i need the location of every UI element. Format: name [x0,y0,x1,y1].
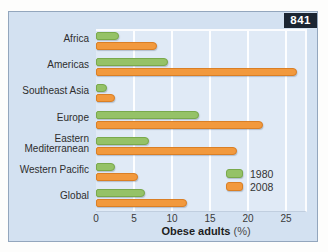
bar-1980-africa [96,32,119,40]
gridline-25 [285,31,287,211]
category-label-western-pacific: Western Pacific [9,157,89,183]
x-axis-title-bold: Obese adults [161,225,230,237]
bar-1980-americas [96,58,168,66]
x-tick-label-10: 10 [161,213,183,224]
bar-1980-europe [96,111,199,119]
bar-2008-africa [96,42,157,50]
x-tick-label-25: 25 [275,213,297,224]
bar-1980-southeast-asia [96,84,107,92]
bar-2008-europe [96,121,263,129]
legend-swatch-2008 [226,182,243,191]
legend-label-2008: 2008 [250,181,273,193]
category-label-southeast-asia: Southeast Asia [9,78,89,104]
x-tick-label-15: 15 [199,213,221,224]
legend-entry-1980: 1980 [226,167,273,180]
bar-2008-western-pacific [96,173,138,181]
chart-panel: 841 AfricaAmericasSoutheast AsiaEuropeEa… [8,11,318,242]
category-label-eastern-mediterranean: Eastern Mediterranean [9,131,89,157]
x-axis-title-unit: (%) [230,225,250,237]
bar-2008-southeast-asia [96,94,115,102]
x-axis-title: Obese adults (%) [96,225,316,237]
figure-canvas: 841 AfricaAmericasSoutheast AsiaEuropeEa… [0,0,328,252]
legend-label-1980: 1980 [250,168,273,180]
plot-area [96,29,307,212]
bar-2008-global [96,199,187,207]
category-label-americas: Americas [9,52,89,78]
category-label-europe: Europe [9,105,89,131]
x-tick-label-0: 0 [85,213,107,224]
category-label-africa: Africa [9,26,89,52]
legend-entry-2008: 2008 [226,180,273,193]
bar-1980-global [96,189,145,197]
category-label-global: Global [9,183,89,209]
figure-number-badge: 841 [284,13,317,28]
bar-2008-americas [96,68,297,76]
legend: 19802008 [226,167,273,193]
x-tick-label-5: 5 [123,213,145,224]
legend-swatch-1980 [226,169,243,178]
bar-2008-eastern-mediterranean [96,147,237,155]
x-tick-label-20: 20 [237,213,259,224]
bar-1980-western-pacific [96,163,115,171]
category-label-column: AfricaAmericasSoutheast AsiaEuropeEaster… [9,12,93,241]
bar-1980-eastern-mediterranean [96,137,149,145]
